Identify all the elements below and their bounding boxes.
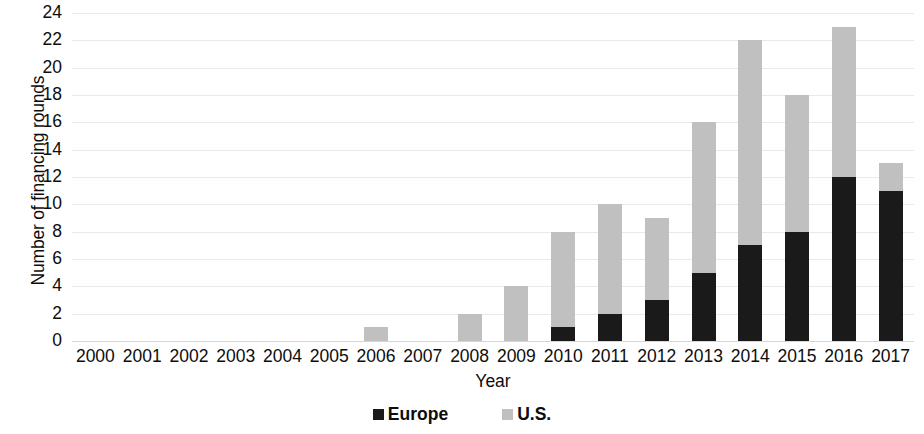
legend-item[interactable]: Europe — [373, 406, 448, 424]
bar-segment-europe[interactable] — [832, 177, 856, 341]
x-axis-tick-label: 2017 — [861, 346, 921, 368]
bar-group[interactable] — [177, 340, 201, 341]
stacked-bar-chart: Number of financing rounds 2422201816141… — [0, 0, 924, 434]
bar-group[interactable] — [692, 122, 716, 341]
bar-segment-europe[interactable] — [598, 314, 622, 341]
bar-group[interactable] — [832, 27, 856, 341]
bar-group[interactable] — [598, 204, 622, 341]
y-axis-tick-label: 12 — [0, 168, 62, 186]
bar-group[interactable] — [83, 340, 107, 341]
bar-group[interactable] — [458, 314, 482, 341]
bar-group[interactable] — [271, 340, 295, 341]
legend-label: U.S. — [517, 406, 551, 424]
bar-segment-us[interactable] — [364, 327, 388, 341]
bar-segment-europe[interactable] — [879, 191, 903, 341]
bar-segment-europe[interactable] — [551, 327, 575, 341]
axis-baseline — [72, 341, 914, 342]
legend-swatch-icon — [373, 409, 384, 420]
bar-group[interactable] — [224, 340, 248, 341]
bar-segment-us[interactable] — [458, 314, 482, 341]
bar-group[interactable] — [645, 218, 669, 341]
bar-group[interactable] — [879, 163, 903, 341]
y-axis-tick-label: 18 — [0, 86, 62, 104]
x-axis-tick-labels: 2000200120022003200420052006200720082009… — [72, 346, 914, 372]
bar-segment-europe[interactable] — [692, 273, 716, 341]
bar-segment-us[interactable] — [785, 95, 809, 232]
legend-swatch-icon — [502, 409, 513, 420]
bar-segment-us[interactable] — [832, 27, 856, 177]
bar-group[interactable] — [738, 40, 762, 341]
y-axis-tick-label: 4 — [0, 278, 62, 296]
y-axis-tick-label: 16 — [0, 114, 62, 132]
bar-segment-europe[interactable] — [738, 245, 762, 341]
bar-group[interactable] — [364, 327, 388, 341]
bar-segment-us[interactable] — [879, 163, 903, 190]
y-axis-tick-label: 2 — [0, 305, 62, 323]
y-axis-tick-labels: 242220181614121086420 — [0, 0, 62, 434]
bar-group[interactable] — [411, 340, 435, 341]
bar-group[interactable] — [504, 286, 528, 341]
bar-series-container — [72, 13, 914, 341]
y-axis-tick-label: 20 — [0, 59, 62, 77]
bar-group[interactable] — [317, 340, 341, 341]
bar-segment-europe[interactable] — [785, 232, 809, 341]
bar-segment-us[interactable] — [645, 218, 669, 300]
bar-segment-europe[interactable] — [645, 300, 669, 341]
bar-segment-us[interactable] — [551, 232, 575, 328]
bar-group[interactable] — [551, 232, 575, 341]
bar-segment-us[interactable] — [738, 40, 762, 245]
y-axis-tick-label: 8 — [0, 223, 62, 241]
x-axis-title: Year — [72, 371, 914, 392]
y-axis-tick-label: 14 — [0, 141, 62, 159]
chart-legend: EuropeU.S. — [0, 406, 924, 424]
bar-segment-us[interactable] — [598, 204, 622, 313]
bar-segment-us[interactable] — [504, 286, 528, 341]
legend-item[interactable]: U.S. — [502, 406, 551, 424]
legend-label: Europe — [388, 406, 448, 424]
plot-area — [72, 13, 914, 341]
y-axis-tick-label: 0 — [0, 332, 62, 350]
y-axis-tick-label: 10 — [0, 196, 62, 214]
bar-group[interactable] — [785, 95, 809, 341]
y-axis-tick-label: 6 — [0, 250, 62, 268]
bar-group[interactable] — [130, 340, 154, 341]
y-axis-tick-label: 22 — [0, 32, 62, 50]
bar-segment-us[interactable] — [692, 122, 716, 272]
y-axis-tick-label: 24 — [0, 4, 62, 22]
